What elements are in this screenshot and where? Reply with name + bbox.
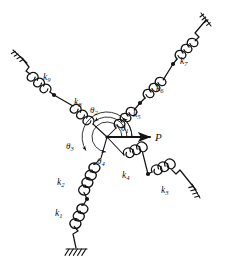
branch-lower-right: [107, 137, 200, 198]
ground-lower: [65, 249, 87, 255]
spring-network-figure: k1 k2 k3 k4 k5 k6 k7 k8: [0, 0, 234, 267]
diagram-canvas: k1 k2 k3 k4 k5 k6 k7 k8: [0, 0, 234, 267]
label-k8: k8: [74, 97, 82, 108]
hub-node: [105, 135, 108, 138]
branch-upper-left: [11, 50, 107, 137]
spring-k7: [173, 20, 206, 64]
label-k1: k1: [55, 208, 63, 219]
link-hub-to-k8: [93, 124, 107, 137]
link-hub-to-k5: [107, 128, 116, 137]
spring-k2: [79, 163, 100, 199]
label-theta3: θ3: [66, 141, 74, 152]
spring-k1: [70, 199, 88, 248]
label-P: P: [154, 131, 162, 143]
joint-upper-left: [52, 93, 56, 97]
label-theta1: θ1: [121, 123, 129, 134]
label-k5: k5: [133, 109, 141, 120]
label-k2: k2: [57, 177, 65, 188]
label-k6: k6: [156, 83, 164, 94]
ground-lower-right: [189, 184, 200, 198]
branch-lower: [65, 137, 107, 255]
link-hub-to-k4: [107, 137, 124, 155]
label-k7: k7: [180, 56, 188, 67]
label-k4: k4: [122, 170, 130, 181]
label-k3: k3: [161, 185, 169, 196]
joint-upper-right-outer: [171, 62, 175, 66]
label-k9: k9: [43, 72, 51, 83]
label-theta4: θ4: [97, 156, 105, 167]
spring-k3: [148, 159, 196, 190]
spring-k4: [123, 142, 148, 174]
joint-lower: [85, 197, 89, 201]
branch-upper-right: [107, 13, 211, 137]
joint-upper-right-inner: [138, 101, 142, 105]
ground-upper-right: [200, 13, 211, 26]
joint-lower-right: [146, 172, 150, 176]
label-theta2: θ2: [90, 105, 98, 116]
ground-upper-left: [11, 50, 27, 63]
